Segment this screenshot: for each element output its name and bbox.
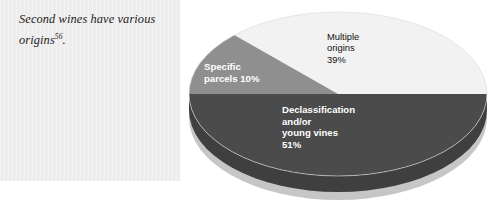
pie-label-multiple-origins: Multiple origins 39% (327, 31, 359, 65)
pie-label-specific-parcels: Specific parcels 10% (204, 61, 259, 84)
caption-trailing-period: . (62, 33, 65, 47)
caption-body: Second wines have various origins (19, 12, 155, 47)
figure-container: Second wines have various origins56. (0, 0, 500, 217)
pie-label-declassification: Declassification and/or young vines 51% (282, 104, 355, 150)
pie-slice-multiple-origins[interactable] (338, 12, 487, 94)
caption-text: Second wines have various origins56. (19, 11, 171, 49)
caption-panel: Second wines have various origins56. (0, 0, 180, 181)
